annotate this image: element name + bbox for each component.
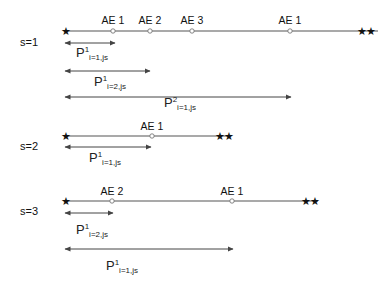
- interval-s2-p1-i1-label: P1i=1,js: [89, 151, 121, 164]
- row-label-s1: s=1: [20, 36, 38, 48]
- interval-s1-p2-i1-base: P: [164, 95, 173, 110]
- event-marker-s3-2: [230, 199, 234, 203]
- event-label-s3-2: AE 1: [221, 185, 244, 197]
- interval-s3-p1-i1-base: P: [106, 258, 115, 273]
- event-marker-s1-1: [111, 29, 115, 33]
- event-label-s3-1: AE 2: [101, 185, 124, 197]
- interval-s3-p1-i1-subscript: i=1,js: [119, 266, 138, 275]
- interval-s1-p1-i1-label: P1i=1,js: [76, 46, 108, 59]
- interval-s1-p1-i2-base: P: [94, 74, 103, 89]
- interval-s1-p1-i2-subscript: i=2,js: [107, 82, 126, 91]
- start-star-s1: ★: [61, 25, 70, 38]
- interval-s1-p2-i1-label: P2i=1,js: [164, 96, 196, 109]
- interval-s3-p1-i2-base: P: [76, 222, 85, 237]
- start-star-s2: ★: [61, 130, 70, 143]
- interval-s1-p1-i2-label: P1i=2,js: [94, 75, 126, 88]
- interval-s3-p1-i1-label: P1i=1,js: [106, 259, 138, 272]
- interval-s2-p1-i1-subscript: i=1,js: [102, 158, 121, 167]
- row-label-s2: s=2: [20, 140, 38, 152]
- end-double-star-s2: ★★: [215, 130, 233, 143]
- interval-s3-p1-i2-subscript: i=2,js: [89, 230, 108, 239]
- start-star-s3: ★: [61, 195, 70, 208]
- event-marker-s1-2: [148, 29, 152, 33]
- event-label-s1-4: AE 1: [279, 14, 302, 26]
- event-marker-s2-1: [150, 134, 154, 138]
- event-marker-s3-1: [110, 199, 114, 203]
- interval-s1-p1-i1-subscript: i=1,js: [89, 53, 108, 62]
- event-label-s1-2: AE 2: [139, 14, 162, 26]
- event-label-s1-1: AE 1: [102, 14, 125, 26]
- event-marker-s1-4: [288, 29, 292, 33]
- interval-s1-p2-i1-subscript: i=1,js: [177, 103, 196, 112]
- event-marker-s1-3: [190, 29, 194, 33]
- interval-s1-p1-i1-base: P: [76, 45, 85, 60]
- event-label-s1-3: AE 3: [181, 14, 204, 26]
- end-double-star-s3: ★★: [301, 195, 319, 208]
- row-label-s3: s=3: [20, 205, 38, 217]
- interval-s2-p1-i1-base: P: [89, 150, 98, 165]
- event-label-s2-1: AE 1: [141, 120, 164, 132]
- diagram-canvas: [0, 0, 386, 286]
- timeline-diagram: s=1★★★AE 1AE 2AE 3AE 1P1i=1,jsP1i=2,jsP2…: [0, 0, 386, 286]
- end-double-star-s1: ★★: [357, 25, 375, 38]
- interval-s3-p1-i2-label: P1i=2,js: [76, 223, 108, 236]
